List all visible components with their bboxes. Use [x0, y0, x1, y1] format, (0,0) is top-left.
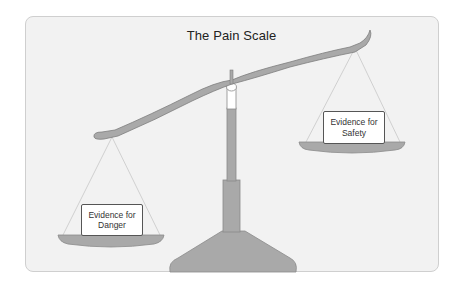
scale-column-upper [227, 108, 236, 181]
evidence-for-safety-label: Evidence for Safety [323, 111, 385, 144]
danger-label-line1: Evidence for [88, 210, 135, 221]
scale-column-lower [223, 180, 240, 232]
danger-label-line2: Danger [98, 220, 126, 231]
evidence-for-danger-label: Evidence for Danger [81, 204, 143, 236]
balance-scale [0, 0, 463, 288]
safety-label-line1: Evidence for [330, 117, 377, 128]
scale-base-icon [170, 231, 297, 272]
safety-label-line2: Safety [342, 128, 366, 139]
left-pan-icon [58, 235, 164, 247]
